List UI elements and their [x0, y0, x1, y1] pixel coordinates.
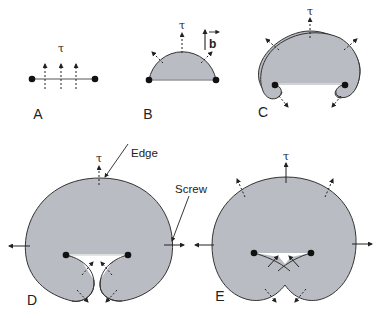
- stress-arrows: [45, 64, 76, 89]
- panel-label-e: E: [215, 288, 224, 304]
- pinning-point-right: [125, 252, 132, 259]
- dislocation-loop-diagram: τ A τ b B τ C: [0, 0, 382, 318]
- pinning-point-left: [251, 250, 258, 257]
- pinning-point-right: [308, 250, 315, 257]
- tau-label: τ: [283, 150, 289, 163]
- panel-a: τ A: [29, 42, 99, 122]
- screw-label: Screw: [175, 183, 208, 195]
- panel-label-d: D: [27, 292, 37, 308]
- edge-pointer: [105, 144, 128, 177]
- tau-label: τ: [96, 152, 102, 165]
- panel-e: τ E: [195, 150, 372, 304]
- pinning-point-right: [342, 82, 349, 89]
- panel-b: τ b B: [143, 19, 219, 122]
- panel-label-b: B: [143, 106, 152, 122]
- panel-label-c: C: [258, 104, 268, 120]
- pinning-point-left: [146, 77, 153, 84]
- burgers-vector-label: b: [209, 37, 216, 51]
- pinning-point-right: [213, 77, 220, 84]
- edge-label: Edge: [131, 147, 158, 159]
- panel-d: τ Edge Screw D: [9, 144, 208, 308]
- loop-shape: [212, 177, 356, 300]
- screw-pointer: [172, 196, 189, 241]
- loop-shape: [25, 178, 172, 301]
- pinning-point-right: [92, 76, 99, 83]
- loop-shape: [149, 52, 216, 80]
- panel-label-a: A: [33, 106, 43, 122]
- pinning-point-left: [63, 252, 70, 259]
- pinning-point-left: [29, 76, 36, 83]
- tau-label: τ: [58, 42, 64, 55]
- panel-c: τ C: [258, 5, 360, 120]
- tau-label: τ: [179, 19, 185, 32]
- tau-label: τ: [307, 5, 313, 18]
- pinning-point-left: [272, 82, 279, 89]
